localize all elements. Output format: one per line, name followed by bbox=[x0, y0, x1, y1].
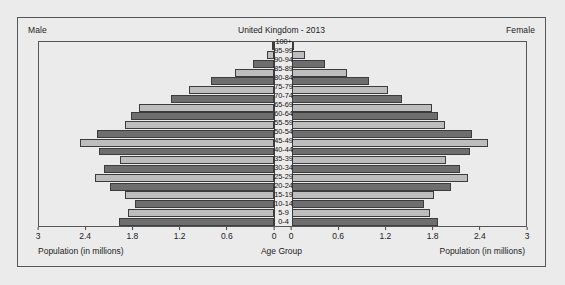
pyramid-row bbox=[39, 200, 274, 209]
male-bar-10-14[interactable] bbox=[135, 200, 274, 208]
tick-label: 1.8 bbox=[427, 231, 439, 241]
tick-mark bbox=[226, 227, 227, 230]
age-group-label-35-39: 35-39 bbox=[275, 154, 292, 163]
female-bar-0-4[interactable] bbox=[291, 218, 438, 226]
tick-mark bbox=[432, 227, 433, 230]
male-bar-20-24[interactable] bbox=[110, 183, 275, 191]
female-bar-50-54[interactable] bbox=[291, 130, 472, 138]
pyramid-row bbox=[291, 173, 526, 182]
female-bar-85-89[interactable] bbox=[291, 69, 347, 77]
female-bar-25-29[interactable] bbox=[291, 174, 468, 182]
age-group-label-90-94: 90-94 bbox=[275, 55, 292, 64]
age-group-label-5-9: 5-9 bbox=[275, 208, 292, 217]
female-bar-70-74[interactable] bbox=[291, 95, 402, 103]
male-bar-55-59[interactable] bbox=[125, 121, 274, 129]
pyramid-row bbox=[39, 95, 274, 104]
male-bar-35-39[interactable] bbox=[120, 156, 274, 164]
tick-mark bbox=[338, 227, 339, 230]
tick-mark bbox=[179, 227, 180, 230]
female-bar-20-24[interactable] bbox=[291, 183, 451, 191]
pyramid-row bbox=[291, 77, 526, 86]
female-bar-60-64[interactable] bbox=[291, 112, 438, 120]
tick-label: 2.4 bbox=[474, 231, 486, 241]
female-axis-tick-1.2: 1.2 bbox=[379, 227, 391, 241]
male-bar-0-4[interactable] bbox=[119, 218, 274, 226]
tick-label: 1.8 bbox=[126, 231, 138, 241]
female-axis-tick-3: 3 bbox=[525, 227, 530, 241]
male-x-axis: 32.41.81.20.60 bbox=[38, 227, 274, 243]
age-group-label-100+: 100+ bbox=[275, 37, 292, 46]
female-bar-90-94[interactable] bbox=[291, 60, 325, 68]
male-bar-80-84[interactable] bbox=[211, 77, 274, 85]
age-group-label-85-89: 85-89 bbox=[275, 64, 292, 73]
tick-label: 0 bbox=[289, 231, 294, 241]
female-side-label: Female bbox=[506, 25, 535, 35]
pyramid-row bbox=[291, 138, 526, 147]
male-bar-75-79[interactable] bbox=[189, 86, 274, 94]
tick-mark bbox=[526, 227, 527, 230]
male-bar-40-44[interactable] bbox=[99, 148, 274, 156]
male-bar-60-64[interactable] bbox=[131, 112, 274, 120]
pyramid-row bbox=[39, 147, 274, 156]
female-bar-15-19[interactable] bbox=[291, 191, 434, 199]
pyramid-row bbox=[39, 156, 274, 165]
male-bar-45-49[interactable] bbox=[80, 139, 274, 147]
female-bar-35-39[interactable] bbox=[291, 156, 446, 164]
female-axis-tick-0: 0 bbox=[289, 227, 294, 241]
pyramid-row bbox=[39, 130, 274, 139]
pyramid-row bbox=[291, 217, 526, 226]
pyramid-row bbox=[39, 42, 274, 51]
age-group-label-95-99: 95-99 bbox=[275, 46, 292, 55]
age-group-label-45-49: 45-49 bbox=[275, 136, 292, 145]
male-bar-85-89[interactable] bbox=[235, 69, 274, 77]
female-axis-tick-2.4: 2.4 bbox=[474, 227, 486, 241]
tick-mark bbox=[37, 227, 38, 230]
pyramid-row bbox=[39, 51, 274, 60]
female-bar-40-44[interactable] bbox=[291, 148, 470, 156]
female-x-axis: 00.61.21.82.43 bbox=[291, 227, 527, 243]
pyramid-plot-area: 0-45-910-1415-1920-2425-2930-3435-3940-4… bbox=[38, 41, 527, 227]
age-group-label-55-59: 55-59 bbox=[275, 118, 292, 127]
male-bar-95-99[interactable] bbox=[267, 51, 274, 59]
female-bar-80-84[interactable] bbox=[291, 77, 369, 85]
female-bar-30-34[interactable] bbox=[291, 165, 460, 173]
male-bar-15-19[interactable] bbox=[125, 191, 274, 199]
pyramid-row bbox=[291, 59, 526, 68]
age-group-label-25-29: 25-29 bbox=[275, 172, 292, 181]
male-axis-tick-1.2: 1.2 bbox=[174, 227, 186, 241]
male-bar-5-9[interactable] bbox=[128, 209, 274, 217]
female-bar-10-14[interactable] bbox=[291, 200, 424, 208]
age-group-label-10-14: 10-14 bbox=[275, 199, 292, 208]
male-bar-90-94[interactable] bbox=[253, 60, 274, 68]
tick-label: 0 bbox=[272, 231, 277, 241]
male-bar-50-54[interactable] bbox=[97, 130, 274, 138]
female-bar-55-59[interactable] bbox=[291, 121, 445, 129]
pyramid-row bbox=[291, 103, 526, 112]
age-group-label-80-84: 80-84 bbox=[275, 73, 292, 82]
pyramid-row bbox=[291, 191, 526, 200]
female-axis-title: Population (in millions) bbox=[439, 246, 525, 256]
female-bar-75-79[interactable] bbox=[291, 86, 388, 94]
tick-label: 0.6 bbox=[221, 231, 233, 241]
female-bar-5-9[interactable] bbox=[291, 209, 430, 217]
tick-label: 0.6 bbox=[332, 231, 344, 241]
pyramid-row bbox=[39, 208, 274, 217]
female-bar-65-69[interactable] bbox=[291, 104, 432, 112]
tick-label: 1.2 bbox=[379, 231, 391, 241]
pyramid-row bbox=[291, 112, 526, 121]
male-bar-30-34[interactable] bbox=[104, 165, 274, 173]
female-bar-95-99[interactable] bbox=[291, 51, 305, 59]
pyramid-row bbox=[39, 138, 274, 147]
pyramid-row bbox=[291, 95, 526, 104]
pyramid-row bbox=[39, 121, 274, 130]
pyramid-row bbox=[39, 112, 274, 121]
pyramid-row bbox=[291, 42, 526, 51]
male-bar-70-74[interactable] bbox=[171, 95, 274, 103]
female-bar-45-49[interactable] bbox=[291, 139, 488, 147]
male-bar-25-29[interactable] bbox=[95, 174, 274, 182]
male-bar-65-69[interactable] bbox=[139, 104, 274, 112]
pyramid-row bbox=[39, 86, 274, 95]
pyramid-row bbox=[39, 165, 274, 174]
tick-mark bbox=[385, 227, 386, 230]
tick-label: 3 bbox=[36, 231, 41, 241]
